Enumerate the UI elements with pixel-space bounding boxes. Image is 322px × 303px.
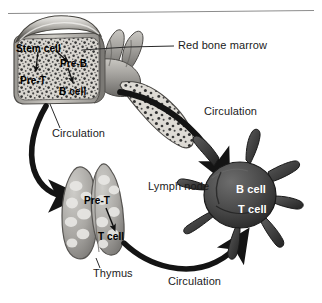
label-lymph-node: Lymph node — [148, 181, 209, 192]
label-pre-t-marrow: Pre-T — [20, 76, 46, 86]
label-circulation-right: Circulation — [204, 106, 257, 117]
label-t-cell-thymus: T cell — [98, 232, 124, 242]
leader-circulation-left — [50, 104, 60, 128]
label-b-cell-node: B cell — [236, 184, 266, 195]
label-thymus: Thymus — [93, 268, 133, 279]
label-b-cell-marrow: B cell — [59, 87, 86, 97]
label-circulation-bottom: Circulation — [168, 276, 221, 287]
top-rule — [8, 11, 314, 14]
lymphocyte-development-diagram: Stem cell Pre-B Pre-T B cell Red bone ma… — [0, 0, 322, 303]
label-stem-cell: Stem cell — [16, 44, 61, 54]
label-pre-b: Pre-B — [60, 59, 87, 69]
label-circulation-left: Circulation — [52, 128, 105, 139]
pathway-marrow-to-thymus — [32, 106, 66, 196]
label-pre-t-thymus: Pre-T — [84, 196, 110, 206]
pathway-thymus-to-lymph-node — [124, 242, 240, 269]
label-red-bone-marrow: Red bone marrow — [178, 40, 267, 51]
thymus-structure — [62, 164, 124, 259]
label-t-cell-node: T cell — [238, 204, 267, 215]
